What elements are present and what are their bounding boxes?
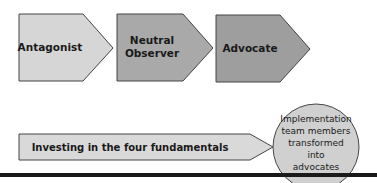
diagram-canvas: Antagonist Neutral Observer Advocate Inv… — [0, 0, 377, 183]
stage-label-line2: Observer — [125, 47, 180, 59]
stage-antagonist: Antagonist — [18, 14, 113, 81]
stage-neutral-observer: Neutral Observer — [117, 14, 213, 81]
stage-advocate: Advocate — [216, 15, 310, 82]
outcome-circle: Implementation team members transformed … — [273, 104, 359, 183]
process-arrow: Investing in the four fundamentals — [19, 134, 273, 160]
outcome-line-4: into — [307, 150, 325, 160]
process-arrow-label: Investing in the four fundamentals — [32, 142, 229, 153]
outcome-line-3: transformed — [288, 138, 343, 148]
outcome-line-5: advocates — [293, 162, 340, 172]
outcome-line-2: team members — [282, 126, 351, 136]
stage-label: Advocate — [222, 42, 277, 54]
bottom-rule — [0, 173, 377, 177]
stage-label: Antagonist — [18, 41, 83, 53]
outcome-line-1: Implementation — [280, 114, 351, 124]
stage-label-line1: Neutral — [130, 34, 174, 46]
